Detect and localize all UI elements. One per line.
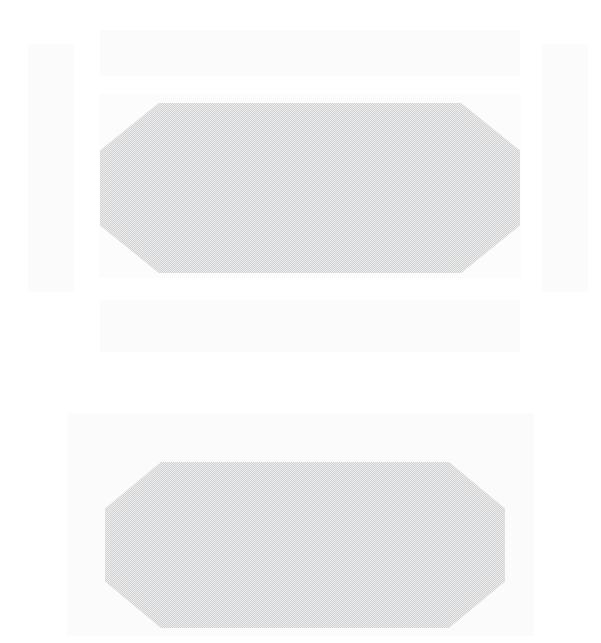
secondary-octagon-shape — [105, 462, 505, 628]
scanned-page — [0, 0, 601, 643]
lower-block-group — [0, 0, 601, 643]
